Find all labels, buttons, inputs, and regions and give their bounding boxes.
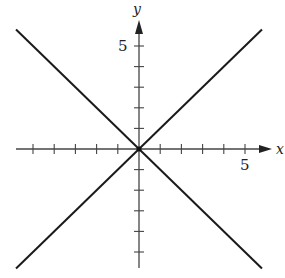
origin-point — [137, 147, 142, 152]
y-axis-arrow-icon — [135, 20, 143, 34]
x-axis-label: x — [276, 141, 284, 157]
chart: xy55 — [0, 0, 285, 278]
x-axis-arrow-icon — [259, 145, 272, 153]
x-tick-label-5: 5 — [240, 156, 250, 174]
y-tick-label-5: 5 — [118, 37, 128, 55]
plot-area: xy55 — [0, 0, 285, 278]
y-axis-label: y — [132, 1, 142, 17]
